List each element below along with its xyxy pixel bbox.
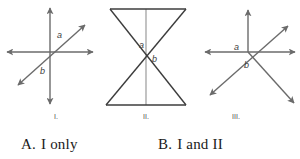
figure-3-graphic: a b [205, 10, 295, 103]
figure-2-caption: II. [131, 113, 161, 120]
figure-3-caption: III. [221, 113, 251, 120]
figure-1-angle-label-b: b [40, 66, 45, 76]
answer-choice-a-text: I only [41, 136, 78, 152]
answer-choice-b-text: I and II [177, 136, 223, 152]
answer-choice-a-letter: A. [21, 136, 36, 152]
question-image: a b a b a b [0, 0, 300, 159]
figure-3-angle-label-b: b [244, 60, 249, 70]
figure-1-graphic: a b [7, 8, 93, 104]
answer-choice-b-letter: B. [158, 136, 172, 152]
figure-2-graphic: a b [106, 9, 186, 105]
answer-choice-b[interactable]: B.I and II [158, 136, 223, 153]
figure-3-angle-label-a: a [234, 42, 239, 52]
figure-1-caption: I. [41, 113, 71, 120]
figure-1-angle-label-a: a [57, 30, 62, 40]
figure-1-diagonal-line [18, 25, 85, 85]
figures-canvas: a b a b a b [0, 0, 300, 120]
figure-2-angle-label-a: a [139, 40, 144, 50]
figure-2-angle-label-b: b [152, 54, 157, 64]
answer-choice-a[interactable]: A.I only [21, 136, 78, 153]
figure-3-diagonal-falling [248, 52, 294, 103]
